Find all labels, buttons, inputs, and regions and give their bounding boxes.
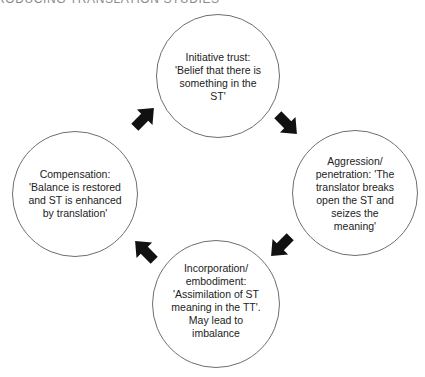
arrow-icon-bottom-to-left (127, 233, 162, 268)
arrow-icon-top-to-right (270, 107, 305, 142)
node-label: Aggression/ penetration: 'The translator… (316, 153, 394, 233)
node-label: Incorporation/ embodiment: 'Assimilation… (171, 262, 260, 346)
node-incorporation-embodiment: Incorporation/ embodiment: 'Assimilation… (152, 240, 280, 368)
node-aggression-penetration: Aggression/ penetration: 'The translator… (292, 130, 418, 256)
node-compensation: Compensation: 'Balance is restored and S… (12, 131, 138, 257)
arrow-icon-right-to-bottom (263, 229, 298, 264)
node-label: Initiative trust: 'Belief that there is … (175, 49, 261, 103)
node-initiative-trust: Initiative trust: 'Belief that there is … (156, 14, 280, 138)
translation-cycle-diagram: Initiative trust: 'Belief that there is … (0, 0, 425, 377)
node-label: Compensation: 'Balance is restored and S… (28, 168, 121, 220)
arrow-icon-left-to-top (127, 100, 162, 135)
